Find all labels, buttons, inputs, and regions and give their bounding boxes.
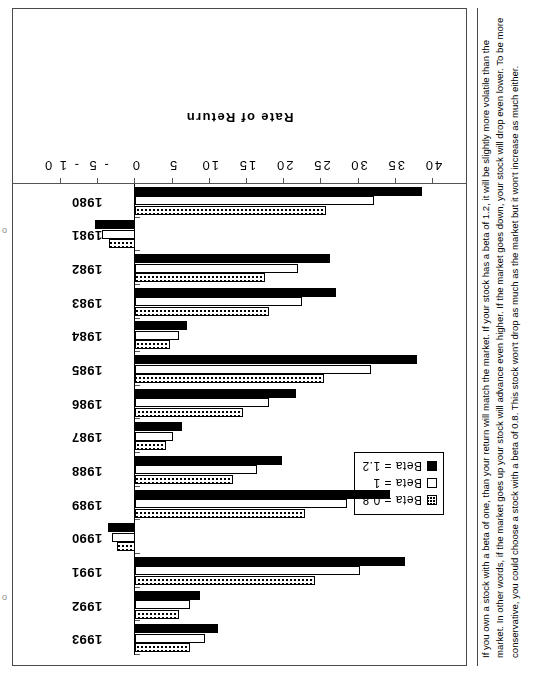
bar-1983-1 [135,297,302,306]
bar-1990-0.8 [117,542,136,551]
axis-tick [246,178,247,184]
axis-tick-label: 35 [376,158,416,173]
axis-tick-label: 25 [301,158,341,173]
bar-1989-1 [135,499,347,508]
axis-tick [432,178,433,184]
legend-swatch-icon-beta-08 [427,496,437,506]
bar-1992-0.8 [135,610,178,619]
value-axis-line [13,183,466,184]
bar-1985-1.2 [135,355,417,364]
bar-1980-1.2 [135,187,421,196]
axis-tick-label: 20 [264,158,304,173]
bar-1989-0.8 [135,509,305,518]
axis-tick [209,178,210,184]
axis-tick [172,178,173,184]
bar-1981-0.8 [109,239,136,248]
category-tick [135,620,140,621]
axis-tick [395,178,396,184]
bar-1983-0.8 [135,307,268,316]
bar-1986-1 [135,398,269,407]
chart-legend: Beta = 0.8 Beta = 1 Beta = 1.2 [354,452,444,515]
category-label-1980: 1980 [71,195,125,210]
category-tick [135,553,140,554]
legend-label-beta-10: Beta = 1 [373,477,422,491]
category-tick [135,486,140,487]
category-label-1985: 1985 [71,363,125,378]
bar-1988-0.8 [135,475,232,484]
bar-1991-0.8 [135,576,315,585]
bar-1993-1.2 [135,624,218,633]
page-marker-top: o [2,225,7,235]
bar-1981-1 [102,230,135,239]
bar-1990-1 [112,533,135,542]
bar-1993-0.8 [135,643,190,652]
caption-panel: If you own a stock with a beta of one, t… [477,8,539,666]
axis-tick-label: 15 [227,158,267,173]
bar-1987-0.8 [135,441,166,450]
category-label-1993: 1993 [71,632,125,647]
axis-tick [358,178,359,184]
category-label-1991: 1991 [71,565,125,580]
category-tick [135,419,140,420]
bar-1987-1 [135,432,173,441]
bar-1982-1.2 [135,254,329,263]
category-label-1986: 1986 [71,397,125,412]
axis-tick-label: 10 [190,158,230,173]
category-tick [135,519,140,520]
value-axis-title: Rate of Return [13,110,466,125]
bar-1983-1.2 [135,288,335,297]
bar-1991-1.2 [135,557,405,566]
axis-tick-label: 5 [153,158,193,173]
legend-swatch-icon-beta-12 [427,462,437,472]
bar-1980-0.8 [135,206,325,215]
bar-1984-1 [135,331,178,340]
category-tick [135,587,140,588]
category-label-1984: 1984 [71,329,125,344]
bar-1992-1 [135,600,189,609]
legend-label-beta-12: Beta = 1.2 [362,460,422,474]
category-label-1992: 1992 [71,599,125,614]
category-tick [135,250,140,251]
bar-1991-1 [135,566,360,575]
bar-1986-1.2 [135,389,296,398]
axis-tick [97,178,98,184]
caption-paragraph: If you own a stock with a beta of one, t… [479,12,522,662]
bar-1987-1.2 [135,422,181,431]
bar-1988-1 [135,465,257,474]
bar-1993-1 [135,634,204,643]
axis-tick-label: - 1 0 [41,158,81,173]
bar-1985-0.8 [135,374,323,383]
legend-swatch-icon-beta-10 [427,479,437,489]
bar-1985-1 [135,365,370,374]
bar-1982-0.8 [135,273,264,282]
chart-frame: Rate of Return Beta = 0.8 Beta = 1 Beta … [12,8,467,666]
page-root: o o Rate of Return Beta = 0.8 Beta = 1 [0,0,543,675]
axis-tick [283,178,284,184]
bar-1980-1 [135,196,374,205]
bar-1981-1.2 [95,220,135,229]
bar-1988-1.2 [135,456,282,465]
bar-1982-1 [135,264,297,273]
category-label-1983: 1983 [71,296,125,311]
category-label-1989: 1989 [71,498,125,513]
page-marker-bottom: o [2,592,7,602]
category-tick [135,654,140,655]
legend-item-beta-12: Beta = 1.2 [362,458,437,475]
axis-tick-label: - 5 [78,158,118,173]
category-label-1982: 1982 [71,262,125,277]
category-label-1987: 1987 [71,430,125,445]
category-tick [135,452,140,453]
caption-rotated: If you own a stock with a beta of one, t… [479,12,539,662]
bar-1984-1.2 [135,321,187,330]
plot-area: Rate of Return Beta = 0.8 Beta = 1 Beta … [13,9,466,665]
category-label-1988: 1988 [71,464,125,479]
chart-rotated-container: Rate of Return Beta = 0.8 Beta = 1 Beta … [13,9,466,665]
category-tick [135,217,140,218]
bar-1986-0.8 [135,408,242,417]
bar-1984-0.8 [135,340,169,349]
axis-tick-label: 30 [339,158,379,173]
category-tick [135,318,140,319]
axis-tick [60,178,61,184]
category-tick [135,385,140,386]
axis-tick-label: 40 [413,158,453,173]
